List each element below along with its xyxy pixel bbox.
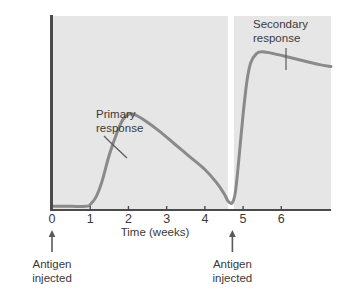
x-axis-tick-label-2: 2 — [118, 212, 138, 226]
plot-background-secondary-phase — [234, 16, 331, 210]
x-axis-tick-label-0: 0 — [42, 212, 62, 226]
injection-callout-first-line-1: Antigen — [4, 257, 100, 271]
secondary-response-label-line-2: response — [253, 32, 308, 46]
x-axis-tick-label-1: 1 — [80, 212, 100, 226]
arrow-injection-0 — [49, 230, 56, 252]
primary-response-label-line-1: Primary — [96, 108, 143, 122]
injection-callout-second: Antigen injected — [184, 257, 280, 285]
x-axis-tick-label-5: 5 — [233, 212, 253, 226]
injection-callout-first: Antigen injected — [4, 257, 100, 285]
arrow-injection-1 — [229, 230, 236, 252]
secondary-response-label: Secondary response — [253, 18, 308, 45]
primary-response-label: Primary response — [96, 108, 143, 135]
primary-response-label-line-2: response — [96, 122, 143, 136]
antibody-response-chart: Relative antibody concentration in blood… — [0, 0, 349, 307]
x-axis-title: Time (weeks) — [95, 226, 215, 238]
secondary-response-label-line-1: Secondary — [253, 18, 308, 32]
x-axis-tick-label-3: 3 — [157, 212, 177, 226]
x-axis-tick-label-4: 4 — [195, 212, 215, 226]
x-axis-tick-label-6: 6 — [271, 212, 291, 226]
injection-callout-first-line-2: injected — [4, 271, 100, 285]
injection-callout-second-line-2: injected — [184, 271, 280, 285]
injection-callout-second-line-1: Antigen — [184, 257, 280, 271]
